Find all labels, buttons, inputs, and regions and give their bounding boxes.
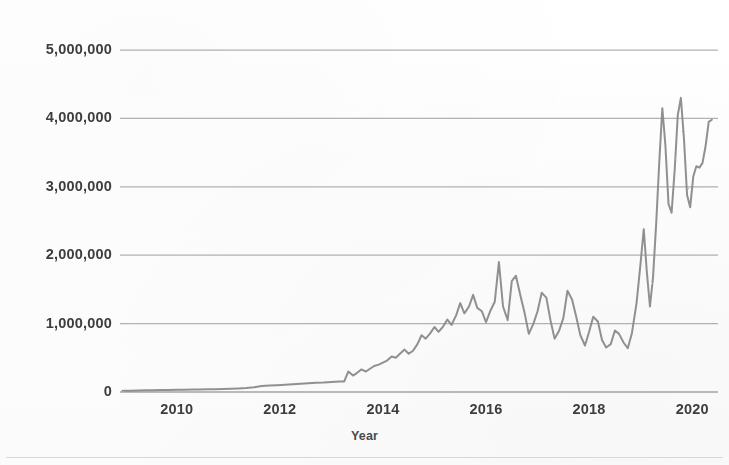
x-tick-label-2012: 2012 (240, 401, 320, 417)
series-line-value (123, 98, 712, 391)
x-tick-label-2020: 2020 (652, 401, 729, 417)
y-tick-label-4: 4,000,000 (46, 109, 112, 125)
y-tick-label-5: 5,000,000 (46, 41, 112, 57)
y-tick-label-0: 0 (104, 383, 112, 399)
x-tick-label-2018: 2018 (549, 401, 629, 417)
y-tick-label-2: 2,000,000 (46, 246, 112, 262)
data-series-group (123, 98, 712, 391)
y-tick-label-1: 1,000,000 (46, 315, 112, 331)
x-axis-title: Year (0, 429, 729, 443)
x-tick-label-2010: 2010 (137, 401, 217, 417)
chart-figure: 0 1,000,000 2,000,000 3,000,000 4,000,00… (0, 0, 729, 465)
x-tick-label-2014: 2014 (343, 401, 423, 417)
footer-divider (6, 457, 723, 458)
x-tick-label-2016: 2016 (446, 401, 526, 417)
y-tick-label-3: 3,000,000 (46, 178, 112, 194)
